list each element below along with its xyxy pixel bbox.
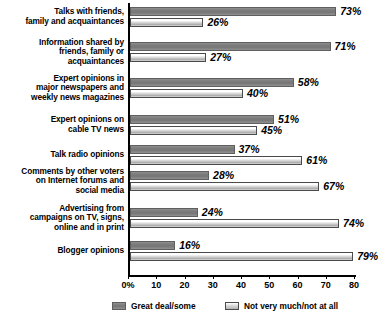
category-label-line: cable TV news	[0, 125, 124, 135]
legend-item[interactable]: Not very much/not at all	[225, 299, 338, 313]
bar-group: Expert opinions inmajor newspapers andwe…	[0, 78, 363, 98]
bar-value-label: 73%	[340, 6, 361, 17]
legend-swatch-icon	[225, 302, 239, 310]
bar-not-very-much	[130, 156, 302, 165]
category-label: Information shared byfriends, family ora…	[0, 38, 124, 67]
bar-great-deal-some	[130, 7, 336, 16]
bar-great-deal-some	[130, 115, 274, 124]
bar-great-deal-some	[130, 78, 294, 87]
x-axis-baseline	[128, 275, 356, 277]
bar-great-deal-some	[130, 208, 198, 217]
x-tick	[354, 275, 355, 279]
x-tick-label: 10	[151, 280, 161, 290]
bar-value-label: 45%	[261, 125, 282, 136]
category-label-line: acquaintances	[0, 57, 124, 67]
x-tick	[241, 275, 242, 279]
bar-value-label: 27%	[210, 52, 231, 63]
x-tick-label: 70	[321, 280, 331, 290]
bar-value-label: 37%	[239, 144, 260, 155]
bar-group: Talk radio opinions37%61%	[0, 145, 363, 165]
bar-great-deal-some	[130, 42, 331, 51]
x-tick	[128, 275, 129, 279]
category-label-line: weekly news magazines	[0, 93, 124, 103]
category-label-line: Talk radio opinions	[0, 150, 124, 160]
x-axis: 0%1020304050607080	[128, 275, 356, 276]
bar-value-label: 24%	[202, 207, 223, 218]
legend-item[interactable]: Great deal/some	[112, 299, 196, 313]
category-label: Comments by other voterson Internet foru…	[0, 167, 124, 196]
category-label: Blogger opinions	[0, 246, 124, 256]
bar-value-label: 67%	[323, 181, 344, 192]
bar-group: Information shared byfriends, family ora…	[0, 42, 363, 62]
x-tick	[156, 275, 157, 279]
bar-not-very-much	[130, 53, 206, 62]
category-label: Talk radio opinions	[0, 150, 124, 160]
bar-not-very-much	[130, 89, 243, 98]
category-label-line: Blogger opinions	[0, 246, 124, 256]
bar-not-very-much	[130, 219, 339, 228]
bar-great-deal-some	[130, 145, 235, 154]
bar-great-deal-some	[130, 171, 209, 180]
legend-label: Great deal/some	[131, 301, 196, 311]
bar-groups: Talks with friends,family and acquaintan…	[0, 3, 363, 275]
bar-value-label: 40%	[247, 88, 268, 99]
bar-value-label: 16%	[179, 240, 200, 251]
plot-area: Talks with friends,family and acquaintan…	[0, 3, 363, 275]
bar-group: Advertising fromcampaigns on TV, signs,o…	[0, 208, 363, 228]
category-label-line: family and acquaintances	[0, 17, 124, 27]
x-tick	[298, 275, 299, 279]
bar-group: Talks with friends,family and acquaintan…	[0, 7, 363, 27]
x-tick-label: 50	[264, 280, 274, 290]
x-tick	[269, 275, 270, 279]
chart-legend: Great deal/someNot very much/not at all	[112, 299, 357, 313]
bar-not-very-much	[130, 18, 203, 27]
bar-group: Comments by other voterson Internet foru…	[0, 171, 363, 191]
bar-not-very-much	[130, 126, 257, 135]
legend-label: Not very much/not at all	[244, 301, 338, 311]
x-tick	[185, 275, 186, 279]
category-label: Advertising fromcampaigns on TV, signs,o…	[0, 204, 124, 233]
category-label: Talks with friends,family and acquaintan…	[0, 7, 124, 26]
x-tick-label: 40	[236, 280, 246, 290]
bar-value-label: 61%	[306, 155, 327, 166]
bar-not-very-much	[130, 252, 353, 261]
bar-value-label: 58%	[298, 77, 319, 88]
bar-great-deal-some	[130, 241, 175, 250]
category-label: Expert opinions oncable TV news	[0, 115, 124, 134]
bar-value-label: 71%	[335, 41, 356, 52]
bar-value-label: 74%	[343, 218, 364, 229]
bar-value-label: 79%	[357, 251, 378, 262]
legend-swatch-icon	[112, 302, 126, 310]
bar-group: Blogger opinions16%79%	[0, 241, 363, 261]
bar-group: Expert opinions oncable TV news51%45%	[0, 115, 363, 135]
bar-not-very-much	[130, 182, 319, 191]
x-tick-label: 30	[208, 280, 218, 290]
category-label-line: social media	[0, 186, 124, 196]
x-tick-label: 0%	[121, 280, 134, 290]
category-label: Expert opinions inmajor newspapers andwe…	[0, 74, 124, 103]
x-tick-label: 80	[349, 280, 359, 290]
x-tick-label: 60	[292, 280, 302, 290]
x-tick	[213, 275, 214, 279]
x-tick-label: 20	[179, 280, 189, 290]
category-label-line: online and in print	[0, 223, 124, 233]
bar-value-label: 28%	[213, 170, 234, 181]
bar-value-label: 26%	[207, 17, 228, 28]
x-tick	[326, 275, 327, 279]
